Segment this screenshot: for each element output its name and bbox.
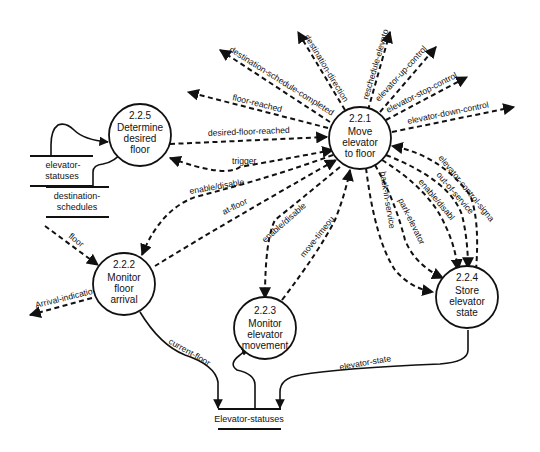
svg-text:2.2.2: 2.2.2 (113, 259, 136, 270)
flow-elevator-statuses-to-2-2-5 (51, 124, 108, 155)
svg-text:Elevator-statuses: Elevator-statuses (214, 414, 284, 424)
store-destination-schedules: destination- schedules (46, 187, 109, 217)
svg-text:to floor: to floor (345, 148, 376, 159)
store-elevator-statuses-main: Elevator-statuses (214, 409, 284, 429)
process-2-2-3: 2.2.3 Monitor elevator movement (234, 297, 296, 359)
svg-text:Monitor: Monitor (107, 272, 141, 283)
flow-label: current-floor (167, 336, 212, 368)
flow-move-timeout: move-timeout (0, 0, 350, 300)
flow-label: desired-floor-reached (208, 125, 290, 138)
svg-text:2.2.5: 2.2.5 (129, 110, 152, 121)
flow-label: elevator-state (339, 353, 392, 372)
process-2-2-1: 2.2.1 Move elevator to floor (329, 107, 391, 169)
flow-label: floor-reached (232, 92, 284, 114)
svg-text:floor: floor (130, 144, 150, 155)
flow-current-floor: current-floor (140, 312, 218, 408)
flow-floor: floor (45, 226, 98, 265)
flow-label: trigger (232, 156, 256, 166)
process-2-2-4: 2.2.4 Store elevator state (436, 266, 498, 328)
svg-text:arrival: arrival (110, 294, 137, 305)
svg-text:2.2.4: 2.2.4 (456, 272, 479, 283)
process-2-2-5: 2.2.5 Determine desired floor (109, 104, 171, 166)
flow-label: park-elevator (396, 196, 427, 246)
svg-text:2.2.1: 2.2.1 (349, 113, 372, 124)
flow-label: floor (67, 231, 86, 249)
process-2-2-2: 2.2.2 Monitor floor arrival (93, 253, 155, 315)
svg-text:statuses: statuses (45, 171, 79, 181)
svg-text:elevator-: elevator- (45, 160, 80, 170)
flow-trigger: trigger (170, 150, 333, 171)
svg-text:2.2.3: 2.2.3 (254, 305, 277, 316)
svg-text:Monitor: Monitor (248, 318, 282, 329)
svg-text:movement: movement (242, 340, 289, 351)
svg-text:elevator: elevator (342, 137, 378, 148)
svg-text:state: state (456, 307, 478, 318)
svg-text:schedules: schedules (57, 202, 98, 212)
data-flow-diagram: destination-schedule-completed destinati… (0, 0, 540, 452)
store-elevator-statuses: elevator- statuses (30, 156, 93, 186)
flow-label: at-floor (220, 196, 249, 217)
svg-text:elevator: elevator (449, 296, 485, 307)
flow-label: Arrival-indication (0, 0, 94, 310)
svg-text:Determine: Determine (117, 122, 164, 133)
flow-arrival-indication: Arrival-indication (0, 0, 94, 315)
flow-elevator-statuses-to-2-2-3 (233, 348, 255, 409)
flow-desired-floor-reached: desired-floor-reached (170, 125, 327, 144)
svg-text:elevator: elevator (247, 329, 283, 340)
svg-text:desired: desired (124, 133, 157, 144)
svg-text:Move: Move (348, 126, 373, 137)
flow-label: enable/disable (260, 200, 308, 244)
flow-label: enable/disable (189, 177, 246, 196)
svg-text:destination-: destination- (54, 191, 101, 201)
flow-elevator-state: elevator-state (280, 330, 468, 408)
svg-text:floor: floor (114, 283, 134, 294)
svg-text:Store: Store (455, 285, 479, 296)
flow-elevator-down-control: elevator-down-control (392, 99, 514, 132)
flow-label: back-in-service (378, 171, 398, 230)
